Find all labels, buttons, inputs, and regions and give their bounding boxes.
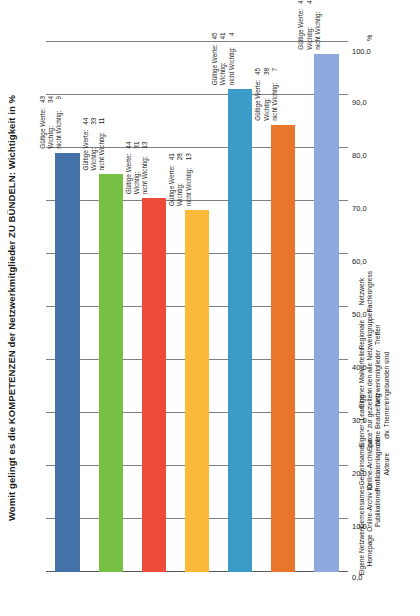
bar-row [185,42,209,572]
bar-row [314,42,338,572]
bar-row [99,42,123,572]
plot-area [46,42,348,572]
category-labels: Eigene Netzwerk HomepageGemeinsames Onli… [352,42,418,572]
rotated-chart-canvas: Womit gelingt es die KOMPETENZEN der Net… [0,0,420,616]
bar-6[interactable] [314,54,338,572]
chart-page: Womit gelingt es die KOMPETENZEN der Net… [0,0,420,616]
bar-2[interactable] [142,198,166,572]
bar-3[interactable] [185,210,209,572]
bar-1[interactable] [99,175,123,573]
annotation-values: 45441 [297,0,322,4]
category-label: Netzwerk Fachkongress [358,260,374,323]
annotation-values: 45414 [211,32,236,39]
bar-4[interactable] [228,89,252,572]
bar-5[interactable] [271,125,295,572]
bar-row [142,42,166,572]
bar-row [271,42,295,572]
bar-0[interactable] [55,153,79,572]
percent-unit-label: % [366,35,373,41]
page-title: Womit gelingt es die KOMPETENZEN der Net… [6,0,17,616]
bar-row [55,42,79,572]
bar-row [228,42,252,572]
bar-series [46,42,348,572]
